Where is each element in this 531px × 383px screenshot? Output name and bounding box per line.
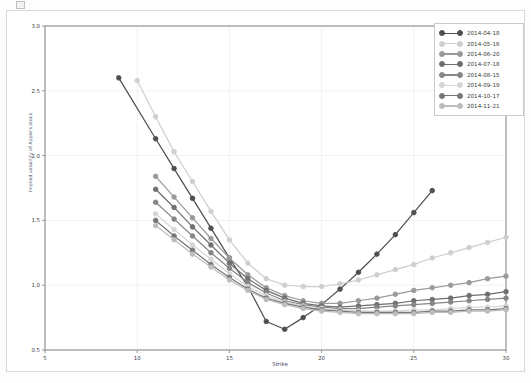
data-point (485, 292, 490, 297)
data-point (467, 280, 472, 285)
data-point (246, 261, 251, 266)
data-point (209, 236, 214, 241)
legend-item-2014-10-17[interactable]: 2014-10-17 (438, 90, 519, 100)
data-point (504, 296, 509, 301)
legend-marker-icon (438, 81, 464, 90)
data-point (430, 285, 435, 290)
data-point (504, 308, 509, 313)
data-point (227, 256, 232, 261)
data-point (227, 278, 232, 283)
data-point (319, 309, 324, 314)
data-point (467, 298, 472, 303)
data-point (301, 315, 306, 320)
data-point (172, 205, 177, 210)
data-point (375, 311, 380, 316)
legend-item-2014-09-19[interactable]: 2014-09-19 (438, 80, 519, 90)
chart-legend[interactable]: 2014-04-182014-05-162014-06-202014-07-18… (434, 23, 524, 116)
legend-label: 2014-10-17 (464, 93, 500, 99)
data-point (172, 166, 177, 171)
data-point (338, 282, 343, 287)
data-point (430, 256, 435, 261)
data-point (227, 261, 232, 266)
data-point (153, 223, 158, 228)
data-point (448, 310, 453, 315)
legend-label: 2014-11-21 (464, 103, 500, 109)
legend-marker-icon (438, 29, 464, 38)
legend-label: 2014-04-18 (464, 30, 500, 36)
data-point (504, 289, 509, 294)
series-line (156, 226, 506, 314)
data-point (375, 273, 380, 278)
y-tick-label: 0.5 (31, 347, 40, 353)
series-line (156, 220, 506, 312)
data-point (485, 276, 490, 281)
data-point (393, 311, 398, 316)
data-point (172, 149, 177, 154)
series-2014-04-18 (116, 76, 434, 332)
x-axis-label: Strike (200, 361, 360, 367)
legend-marker-icon (438, 101, 464, 110)
data-point (153, 114, 158, 119)
data-point (448, 300, 453, 305)
data-point (412, 302, 417, 307)
legend-item-2014-08-15[interactable]: 2014-08-15 (438, 70, 519, 80)
data-point (153, 174, 158, 179)
legend-label: 2014-07-18 (464, 61, 500, 67)
series-line (156, 176, 506, 303)
data-point (190, 225, 195, 230)
data-point (430, 310, 435, 315)
y-tick-label: 2.0 (31, 153, 40, 159)
data-point (209, 243, 214, 248)
legend-marker-icon (438, 49, 464, 58)
data-point (393, 292, 398, 297)
data-point (375, 252, 380, 257)
data-point (467, 293, 472, 298)
data-point (190, 252, 195, 257)
x-tick-label: 10 (134, 355, 141, 361)
y-tick-label: 3.0 (31, 23, 40, 29)
legend-item-2014-07-18[interactable]: 2014-07-18 (438, 59, 519, 69)
legend-marker-icon (438, 39, 464, 48)
data-point (412, 262, 417, 267)
series-line (156, 202, 506, 308)
legend-item-2014-04-18[interactable]: 2014-04-18 (438, 28, 519, 38)
series-2014-10-17 (153, 218, 508, 315)
data-point (412, 210, 417, 215)
data-point (116, 76, 121, 81)
legend-item-2014-11-21[interactable]: 2014-11-21 (438, 101, 519, 111)
x-tick-label: 25 (410, 355, 417, 361)
legend-item-2014-06-20[interactable]: 2014-06-20 (438, 49, 519, 59)
data-point (412, 288, 417, 293)
data-point (227, 238, 232, 243)
data-point (485, 297, 490, 302)
data-point (153, 187, 158, 192)
data-point (356, 298, 361, 303)
data-point (209, 265, 214, 270)
data-point (209, 257, 214, 262)
x-tick-label: 30 (503, 355, 510, 361)
legend-marker-icon (438, 91, 464, 100)
data-point (430, 188, 435, 193)
data-point (153, 200, 158, 205)
y-axis-label: Implied volatility of Apple's stock (28, 93, 33, 213)
data-point (172, 227, 177, 232)
legend-label: 2014-06-20 (464, 51, 500, 57)
data-point (393, 232, 398, 237)
data-point (135, 78, 140, 83)
data-point (264, 297, 269, 302)
legend-marker-icon (438, 70, 464, 79)
data-point (448, 283, 453, 288)
data-point (301, 306, 306, 311)
data-point (319, 284, 324, 289)
legend-label: 2014-08-15 (464, 72, 500, 78)
data-point (356, 311, 361, 316)
legend-item-2014-05-16[interactable]: 2014-05-16 (438, 38, 519, 48)
data-point (393, 267, 398, 272)
data-point (485, 240, 490, 245)
data-point (338, 287, 343, 292)
data-point (153, 218, 158, 223)
data-point (172, 217, 177, 222)
data-point (190, 216, 195, 221)
data-point (153, 212, 158, 217)
data-point (301, 284, 306, 289)
